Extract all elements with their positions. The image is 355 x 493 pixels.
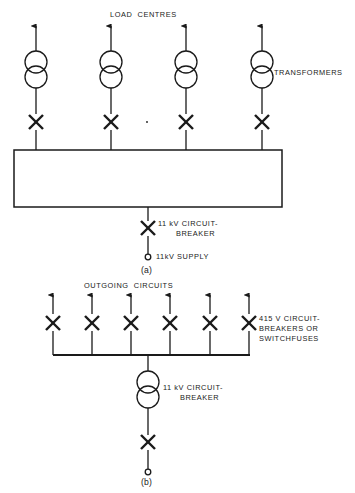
label-hv-breaker-a-line2: BREAKER bbox=[176, 229, 215, 239]
transformer-winding-secondary-b bbox=[137, 386, 159, 408]
incomer-terminal-circle-b bbox=[145, 469, 151, 475]
figure-caption-b: (b) bbox=[141, 478, 152, 488]
outgoing-circuit-6 bbox=[242, 295, 256, 355]
outgoing-circuit-4 bbox=[163, 295, 177, 355]
label-lv-breakers-line3: SWITCHFUSES bbox=[259, 334, 319, 344]
feeder-branch-4 bbox=[251, 26, 273, 150]
page-speck bbox=[146, 121, 148, 123]
transformer-winding-secondary-3 bbox=[175, 66, 197, 88]
label-lv-breakers-line2: BREAKERS OR bbox=[259, 324, 318, 334]
outgoing-circuit-1 bbox=[46, 295, 60, 355]
outgoing-circuit-5 bbox=[203, 295, 217, 355]
feeder-branch-2 bbox=[100, 26, 122, 150]
figure-caption-a: (a) bbox=[141, 266, 152, 276]
incoming-supply-a bbox=[141, 207, 155, 260]
label-hv-breaker-b-line1: 11 kV CIRCUIT- bbox=[163, 383, 223, 393]
diagram-b-group bbox=[46, 295, 256, 475]
transformer-winding-secondary-2 bbox=[100, 66, 122, 88]
label-hv-breaker-a-line1: 11 kV CIRCUIT- bbox=[158, 219, 218, 229]
incoming-transformer-b bbox=[137, 355, 159, 475]
supply-terminal-circle bbox=[145, 254, 151, 260]
label-hv-breaker-b-line2: BREAKER bbox=[180, 393, 219, 403]
label-transformers: TRANSFORMERS bbox=[274, 68, 343, 78]
label-lv-breakers-line1: 415 V CIRCUIT- bbox=[259, 314, 320, 324]
diagram-a-group bbox=[14, 26, 282, 260]
outgoing-circuit-2 bbox=[85, 295, 99, 355]
transformer-winding-secondary-4 bbox=[251, 66, 273, 88]
outgoing-circuit-3 bbox=[124, 295, 138, 355]
feeder-branch-1 bbox=[25, 26, 47, 150]
diagram-canvas: LOAD CENTRES TRANSFORMERS 11 kV CIRCUIT-… bbox=[0, 0, 355, 493]
label-outgoing-circuits: OUTGOING CIRCUITS bbox=[84, 281, 173, 291]
label-load-centres: LOAD CENTRES bbox=[110, 10, 177, 20]
feeder-branch-3 bbox=[175, 26, 197, 150]
transformer-winding-secondary-1 bbox=[25, 66, 47, 88]
busbar-enclosure-a bbox=[14, 150, 282, 207]
label-supply-a: 11kV SUPPLY bbox=[156, 252, 209, 262]
